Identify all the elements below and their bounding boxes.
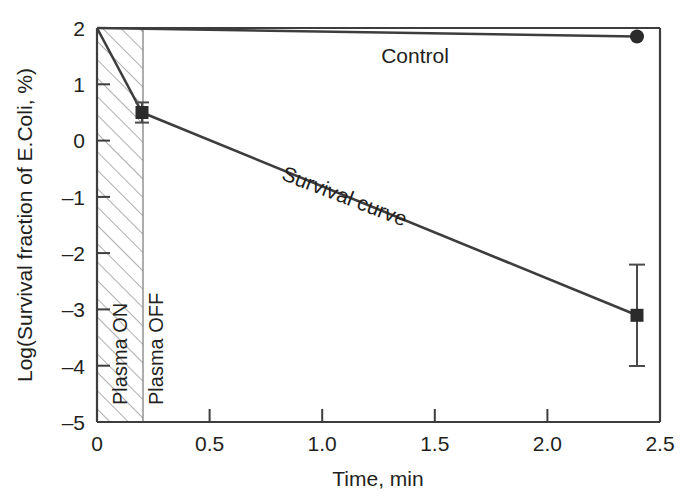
x-tick-label-15: 1.5 (420, 432, 449, 455)
figure-root: 2 1 0 –1 –2 –3 –4 –5 0 0.5 1.0 1.5 2.0 2… (0, 0, 686, 503)
y-tick-label-2: 2 (73, 17, 85, 40)
y-tick-labels: 2 1 0 –1 –2 –3 –4 –5 (62, 17, 86, 434)
annotation-control: Control (381, 44, 449, 67)
x-tick-labels: 0 0.5 1.0 1.5 2.0 2.5 (91, 432, 674, 455)
y-tick-label-m3: –3 (62, 298, 85, 321)
y-axis-title: Log(Survival fraction of E.Coli, %) (13, 68, 36, 382)
annotation-plasma-on: Plasma ON (109, 303, 131, 405)
y-tick-label-1: 1 (73, 73, 85, 96)
annotation-plasma-off: Plasma OFF (145, 293, 167, 405)
x-tick-label-10: 1.0 (308, 432, 337, 455)
survival-curve-chart: 2 1 0 –1 –2 –3 –4 –5 0 0.5 1.0 1.5 2.0 2… (0, 0, 686, 503)
y-tick-label-m2: –2 (62, 242, 85, 265)
y-tick-label-0: 0 (73, 129, 85, 152)
y-tick-label-m4: –4 (62, 355, 86, 378)
x-tick-label-25: 2.5 (645, 432, 674, 455)
x-tick-label-0: 0 (91, 432, 103, 455)
control-data-marker (630, 30, 644, 44)
y-tick-label-m1: –1 (62, 186, 85, 209)
x-axis-title: Time, min (332, 467, 423, 490)
y-tick-label-m5: –5 (62, 411, 85, 434)
survival-data-marker-2 (631, 309, 644, 322)
plot-background (97, 28, 660, 422)
x-tick-label-05: 0.5 (195, 432, 224, 455)
survival-data-marker-1 (136, 106, 149, 119)
x-tick-label-20: 2.0 (533, 432, 562, 455)
